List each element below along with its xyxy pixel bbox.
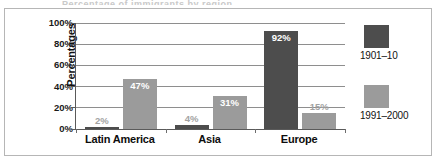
bar[interactable]: 92% <box>264 31 298 129</box>
y-axis-tick-mark <box>71 107 75 108</box>
y-axis-tick-label: 80% <box>33 38 73 49</box>
bar-value-label: 31% <box>213 97 247 109</box>
bar[interactable] <box>85 127 119 129</box>
plot-region: Percentages 2%47%4%31%92%15% 0%20%40%60%… <box>75 23 348 137</box>
bar[interactable] <box>302 113 336 129</box>
bar-value-label: 4% <box>175 113 209 124</box>
gridline <box>76 23 345 24</box>
cut-off-title-text: Percentage of immigrants by region <box>62 0 262 5</box>
y-axis-tick-mark <box>71 86 75 87</box>
legend-color-swatch <box>364 85 389 108</box>
x-axis-category-label: Europe <box>254 133 344 145</box>
chart-figure-frame: Percentages 2%47%4%31%92%15% 0%20%40%60%… <box>4 8 432 156</box>
gridline <box>76 65 345 66</box>
y-axis-tick-mark <box>71 23 75 24</box>
y-axis-tick-mark <box>71 65 75 66</box>
y-axis-tick-label: 20% <box>33 102 73 113</box>
bar[interactable] <box>175 125 209 129</box>
y-axis-tick-label: 0% <box>33 123 73 134</box>
y-axis-tick-label: 40% <box>33 81 73 92</box>
legend-label: 1991–2000 <box>360 110 408 121</box>
gridline <box>76 86 345 87</box>
y-axis-tick-label: 60% <box>33 59 73 70</box>
bar-value-label: 47% <box>123 80 157 92</box>
plot-area: 2%47%4%31%92%15% <box>75 23 345 130</box>
bar[interactable]: 31% <box>213 96 247 129</box>
y-axis-tick-mark <box>71 44 75 45</box>
x-axis-category-label: Latin America <box>75 133 165 145</box>
x-axis-tick-mark <box>345 129 346 133</box>
legend-label: 1901–10 <box>360 50 398 61</box>
bar-value-label: 2% <box>85 115 119 126</box>
chart-legend: 1901–101991–2000 <box>360 23 430 143</box>
bar-value-label: 92% <box>264 32 298 44</box>
gridline <box>76 44 345 45</box>
legend-color-swatch <box>364 25 389 48</box>
y-axis-tick-mark <box>71 129 75 130</box>
bar[interactable]: 47% <box>123 79 157 129</box>
y-axis-tick-label: 100% <box>33 17 73 28</box>
x-axis-category-label: Asia <box>165 133 255 145</box>
bar-value-label: 15% <box>302 101 336 112</box>
